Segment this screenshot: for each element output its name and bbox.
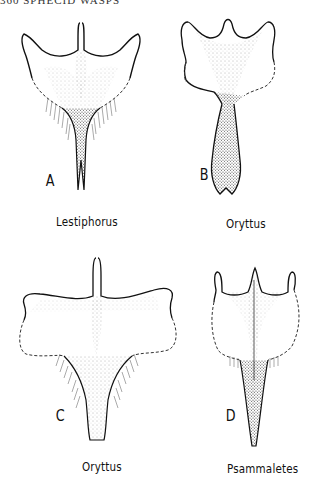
caption-b: Oryttus [226, 217, 266, 231]
caption-c: Oryttus [82, 460, 122, 474]
figure-drawings [0, 0, 316, 494]
panel-label-b: B [200, 166, 209, 184]
panel-label-a: A [46, 172, 55, 190]
caption-d: Psammaletes [227, 462, 298, 476]
panel-label-d: D [226, 407, 236, 425]
caption-a: Lestiphorus [56, 215, 118, 229]
drawing-a-lestiphorus [22, 23, 140, 190]
panel-label-c: C [56, 407, 65, 425]
drawing-c-oryttus [20, 258, 176, 440]
drawing-b-oryttus [181, 20, 275, 195]
